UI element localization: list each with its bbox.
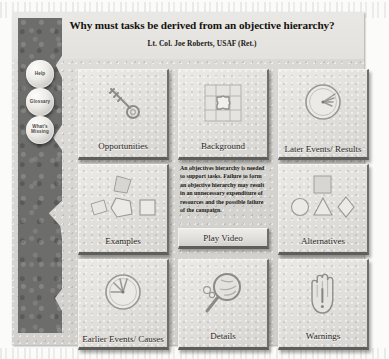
play-video-button[interactable]: Play Video — [178, 228, 269, 249]
glossary-button-label: Glossary — [27, 100, 53, 105]
page-subtitle: Lt. Col. Joe Roberts, USAF (Ret.) — [52, 39, 352, 48]
tile-label: Alternatives — [279, 237, 367, 246]
tile-warnings[interactable]: Warnings — [278, 259, 369, 350]
explanation-text: An objectives hierarchy is needed to sup… — [180, 164, 266, 214]
tile-label: Examples — [79, 237, 167, 246]
key-icon — [79, 76, 167, 130]
polygon-shapes-icon — [79, 171, 167, 225]
clock-icon — [79, 266, 167, 320]
tile-details[interactable]: Details — [178, 259, 269, 350]
tile-examples[interactable]: Examples — [78, 164, 169, 255]
page-title: Why must tasks be derived from an object… — [52, 19, 352, 31]
puzzle-icon — [179, 76, 267, 130]
tile-label: Opportunities — [79, 142, 167, 151]
content-panel: Why must tasks be derived from an object… — [12, 12, 364, 345]
glossary-button[interactable]: Glossary — [26, 88, 54, 116]
tile-grid: Opportunities Background — [78, 69, 366, 345]
tile-alternatives[interactable]: Alternatives — [278, 164, 369, 255]
help-button[interactable]: Help — [26, 60, 54, 88]
whats-missing-button-label: What's Missing — [27, 125, 53, 134]
hand-icon — [279, 266, 367, 320]
tile-label: Warnings — [279, 332, 367, 341]
header-bar: Why must tasks be derived from an object… — [12, 12, 364, 59]
center-text-panel: An objectives hierarchy is needed to sup… — [178, 164, 266, 251]
clock-icon — [279, 76, 367, 130]
whats-missing-button[interactable]: What's Missing — [26, 116, 54, 144]
geometric-shapes-icon — [279, 171, 367, 225]
tile-label: Earlier Events/ Causes — [79, 335, 167, 344]
tile-label: Background — [179, 142, 267, 151]
magnifying-glass-icon — [179, 266, 267, 320]
tile-earlier-events-causes[interactable]: Earlier Events/ Causes — [78, 259, 169, 350]
tile-later-events-results[interactable]: Later Events/ Results — [278, 69, 369, 160]
help-button-label: Help — [27, 72, 53, 77]
tile-label: Later Events/ Results — [279, 145, 367, 154]
tile-opportunities[interactable]: Opportunities — [78, 69, 169, 160]
tile-label: Details — [179, 332, 267, 341]
kiosk-screen: Why must tasks be derived from an object… — [0, 0, 389, 359]
tile-background[interactable]: Background — [178, 69, 269, 160]
